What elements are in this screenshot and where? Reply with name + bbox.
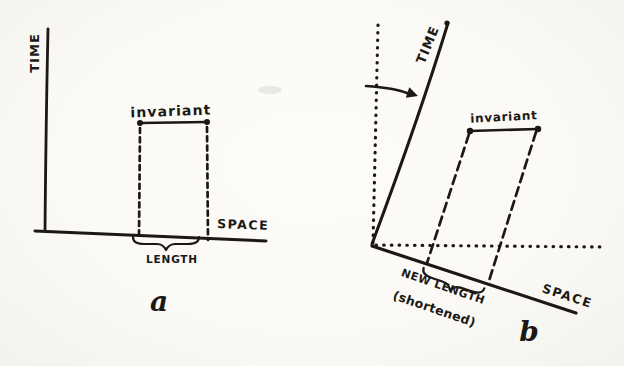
invariant-label-b: invariant: [470, 108, 538, 126]
invariant-endpoint-right-a: [204, 119, 210, 125]
time-axis-label-a: TIME: [27, 33, 42, 73]
caption-a: a: [150, 285, 168, 318]
time-axis-b: [372, 23, 448, 244]
tilt-arrow-shaft: [366, 86, 407, 93]
time-axis-a: [45, 29, 48, 231]
dotted-vertical-reference-b: [373, 25, 378, 243]
length-label-a: LENGTH: [146, 253, 198, 265]
diagram-b: TIME invariant SPACE NEW LENGTH (shorten…: [366, 20, 604, 348]
invariant-segment-b: [470, 129, 538, 131]
dotted-horizontal-reference-b: [376, 245, 604, 247]
invariant-endpoint-left-a: [137, 120, 143, 126]
worldline-dashed-left-b: [427, 134, 469, 263]
worldline-dashed-left-a: [139, 128, 140, 237]
space-axis-label-b: SPACE: [540, 281, 594, 311]
space-axis-a: [35, 231, 266, 241]
scanned-figure-page: TIME SPACE invariant LENGTH a TIME: [0, 0, 624, 366]
space-axis-label-a: SPACE: [217, 216, 269, 233]
tilt-arrow-head: [406, 87, 418, 97]
spacetime-diagrams: TIME SPACE invariant LENGTH a TIME: [0, 0, 624, 366]
diagram-a: TIME SPACE invariant LENGTH a: [27, 29, 269, 318]
caption-b: b: [519, 315, 539, 348]
time-axis-tip-b: [444, 20, 449, 25]
invariant-label-a: invariant: [130, 102, 212, 121]
worldline-dashed-right-a: [207, 127, 208, 240]
invariant-segment-a: [140, 122, 207, 123]
worldline-dashed-right-b: [488, 132, 536, 284]
scan-smudge: [258, 86, 282, 94]
